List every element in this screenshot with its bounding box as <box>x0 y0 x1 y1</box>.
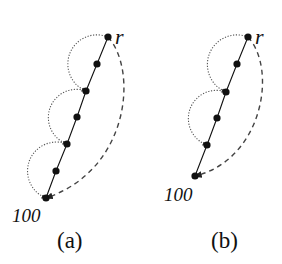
dotted-arc <box>68 35 108 91</box>
chain-node <box>93 60 100 67</box>
end-node <box>42 194 49 201</box>
chain-node <box>73 113 80 120</box>
root-node <box>104 33 111 40</box>
caption-b: (b) <box>211 229 238 252</box>
chain-node <box>233 60 240 67</box>
chain-line <box>195 37 248 176</box>
chain-node <box>82 87 89 94</box>
end-node <box>191 172 198 179</box>
end-label-a: 100 <box>12 206 41 225</box>
chain-node <box>63 140 70 147</box>
chain-node <box>222 88 229 95</box>
end-label-b: 100 <box>164 185 193 204</box>
panel-a <box>28 33 124 201</box>
root-label-a: r <box>115 26 124 48</box>
caption-a: (a) <box>57 229 83 252</box>
dotted-arc <box>207 35 248 92</box>
root-label-b: r <box>255 26 264 48</box>
chain-node <box>213 114 220 121</box>
root-node <box>244 33 251 40</box>
chain-node <box>203 141 210 148</box>
dashed-jump-curve <box>195 37 263 176</box>
panel-b <box>188 33 262 179</box>
chain-node <box>52 167 59 174</box>
diagram-canvas <box>0 0 282 264</box>
dotted-arc <box>28 142 67 198</box>
